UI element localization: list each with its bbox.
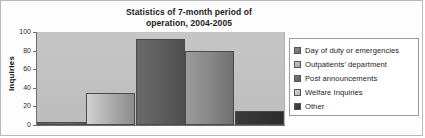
legend-item[interactable]: Outpatients' department xyxy=(294,57,415,71)
bar xyxy=(235,111,284,125)
y-tick-label: 60 xyxy=(5,65,31,72)
y-tick-label: 100 xyxy=(5,28,31,35)
chart-title-line-1: Statistics of 7-month period of xyxy=(89,7,289,18)
bar xyxy=(136,39,185,125)
y-tick-label: 80 xyxy=(5,47,31,54)
chart-legend: Day of duty or emergenciesOutpatients' d… xyxy=(289,38,419,116)
bar xyxy=(37,122,86,125)
legend-swatch-icon xyxy=(294,103,301,110)
chart-frame: Statistics of 7-month period of operatio… xyxy=(0,0,423,136)
legend-swatch-icon xyxy=(294,89,301,96)
legend-item-label: Post announcements xyxy=(305,74,377,83)
plot-area xyxy=(37,32,285,125)
y-tick-label: 20 xyxy=(5,102,31,109)
legend-item[interactable]: Welfare Inquiries xyxy=(294,85,415,99)
legend-item[interactable]: Other xyxy=(294,99,415,113)
chart-title: Statistics of 7-month period of operatio… xyxy=(89,7,289,29)
legend-item-label: Day of duty or emergencies xyxy=(305,46,399,55)
legend-item-label: Other xyxy=(305,102,324,111)
legend-item[interactable]: Day of duty or emergencies xyxy=(294,43,415,57)
legend-item-label: Welfare Inquiries xyxy=(305,88,363,97)
legend-swatch-icon xyxy=(294,61,301,68)
bar xyxy=(185,51,234,125)
legend-swatch-icon xyxy=(294,75,301,82)
y-tick-label: 40 xyxy=(5,84,31,91)
legend-swatch-icon xyxy=(294,47,301,54)
legend-item[interactable]: Post announcements xyxy=(294,71,415,85)
chart-title-line-2: operation, 2004-2005 xyxy=(89,18,289,29)
y-tick-label: 0 xyxy=(5,121,31,128)
legend-item-label: Outpatients' department xyxy=(305,60,387,69)
x-axis-line xyxy=(36,125,285,126)
bar xyxy=(86,93,135,125)
